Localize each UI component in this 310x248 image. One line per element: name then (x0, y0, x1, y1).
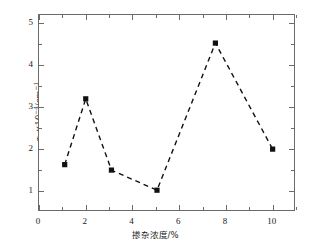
x-tick-label-10: 10 (267, 216, 276, 226)
data-point-0 (62, 162, 67, 167)
x-tick-label-0: 0 (36, 216, 41, 226)
x-tick-label-4: 4 (129, 216, 134, 226)
y-tick-6 (39, 65, 44, 66)
y-tick-label-4: 4 (18, 59, 33, 69)
x-tick-top-8 (226, 205, 227, 210)
y-tick-label-5: 5 (18, 17, 33, 27)
y-tick-right-6 (289, 65, 294, 66)
plot-area (38, 14, 295, 211)
x-tick-1 (62, 15, 63, 18)
x-tick-top-1 (62, 207, 63, 210)
x-tick-10 (273, 15, 274, 20)
data-point-3 (154, 188, 159, 193)
x-tick-top-5 (156, 207, 157, 210)
chart-figure: αb×10−4/cm−1 024681012345 掺杂浓度/% (0, 0, 310, 248)
x-tick-top-7 (203, 207, 204, 210)
x-tick-3 (109, 15, 110, 18)
x-tick-0 (39, 15, 40, 20)
y-tick-7 (39, 44, 42, 45)
x-tick-label-8: 8 (223, 216, 228, 226)
y-tick-right-7 (291, 44, 294, 45)
x-tick-top-4 (132, 205, 133, 210)
x-tick-2 (86, 15, 87, 20)
series-line (65, 43, 273, 190)
y-tick-right-2 (289, 149, 294, 150)
x-tick-label-6: 6 (176, 216, 181, 226)
y-tick-right-4 (289, 107, 294, 108)
y-tick-label-3: 3 (18, 101, 33, 111)
y-tick-5 (39, 86, 42, 87)
data-point-5 (270, 147, 275, 152)
y-tick-right-8 (289, 23, 294, 24)
y-tick-1 (39, 170, 42, 171)
x-tick-top-9 (249, 207, 250, 210)
x-tick-top-6 (179, 205, 180, 210)
x-tick-top-3 (109, 207, 110, 210)
y-tick-4 (39, 107, 44, 108)
y-tick-2 (39, 149, 44, 150)
data-point-4 (213, 40, 218, 45)
y-tick-right-1 (291, 170, 294, 171)
y-tick-0 (39, 191, 44, 192)
x-tick-top-0 (39, 205, 40, 210)
x-tick-8 (226, 15, 227, 20)
y-tick-right-5 (291, 86, 294, 87)
data-point-1 (83, 96, 88, 101)
y-tick-right-3 (291, 128, 294, 129)
series-markers (62, 40, 275, 192)
y-tick-label-1: 1 (18, 185, 33, 195)
x-tick-9 (249, 15, 250, 18)
data-series-svg (39, 15, 296, 212)
x-tick-top-10 (273, 205, 274, 210)
y-tick-right-0 (289, 191, 294, 192)
x-axis-title: 掺杂浓度/% (0, 228, 310, 240)
x-tick-4 (132, 15, 133, 20)
x-tick-label-2: 2 (82, 216, 87, 226)
y-tick-label-2: 2 (18, 143, 33, 153)
x-tick-7 (203, 15, 204, 18)
data-point-2 (109, 167, 114, 172)
x-tick-6 (179, 15, 180, 20)
y-tick-3 (39, 128, 42, 129)
x-tick-5 (156, 15, 157, 18)
x-tick-11 (296, 15, 297, 18)
x-tick-top-2 (86, 205, 87, 210)
y-tick-8 (39, 23, 44, 24)
x-tick-top-11 (296, 207, 297, 210)
